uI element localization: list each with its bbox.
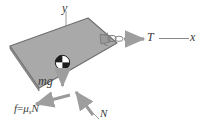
friction-normal-symbol: N xyxy=(31,102,38,114)
tension-label: T xyxy=(147,31,154,43)
friction-arrow xyxy=(36,95,70,104)
y-axis-label: y xyxy=(62,2,67,14)
friction-label: f=μsN xyxy=(14,103,39,116)
normal-force-label: N xyxy=(100,108,107,119)
normal-label-leader xyxy=(93,113,99,119)
figure-canvas: y x T mg N f=μsN xyxy=(0,0,205,125)
center-of-mass-icon xyxy=(55,55,70,70)
weight-label: mg xyxy=(38,75,53,87)
x-axis-label: x xyxy=(190,31,195,43)
normal-force-arrow xyxy=(76,92,93,115)
